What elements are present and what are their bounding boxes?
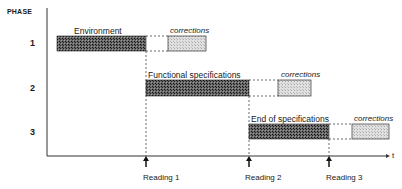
reading-2-arrow-icon bbox=[246, 156, 252, 167]
phase-1-corrections-bar bbox=[168, 36, 206, 51]
phase-3-corrections-label: corrections bbox=[354, 114, 393, 123]
phase-3-number: 3 bbox=[30, 127, 35, 137]
reading-3-label: Reading 3 bbox=[326, 173, 362, 182]
phase-2-corrections-label: corrections bbox=[281, 70, 320, 79]
phase-3-task-label: End of specifications bbox=[251, 114, 329, 124]
phase-1-number: 1 bbox=[30, 38, 35, 48]
phase-3-task-bar bbox=[249, 124, 329, 139]
x-axis-arrow-icon bbox=[386, 154, 390, 158]
reading-1-arrow-icon bbox=[143, 156, 149, 167]
reading-1-label: Reading 1 bbox=[143, 173, 179, 182]
phase-3-corrections-bar bbox=[352, 124, 389, 139]
reading-2-label: Reading 2 bbox=[245, 173, 281, 182]
phase-2-corrections-bar bbox=[278, 80, 311, 96]
reading-3-arrow-icon bbox=[326, 156, 332, 167]
phase-1-corrections-label: corrections bbox=[170, 26, 209, 35]
phase-1-task-label: Environment bbox=[74, 26, 122, 36]
phase-2-task-label: Functional specifications bbox=[148, 70, 241, 80]
y-axis-label: PHASE bbox=[7, 8, 32, 15]
x-axis-label: t bbox=[392, 151, 394, 160]
phase-2-task-bar bbox=[146, 80, 249, 96]
phase-2-number: 2 bbox=[30, 83, 35, 93]
phase-1-task-bar bbox=[57, 36, 146, 51]
